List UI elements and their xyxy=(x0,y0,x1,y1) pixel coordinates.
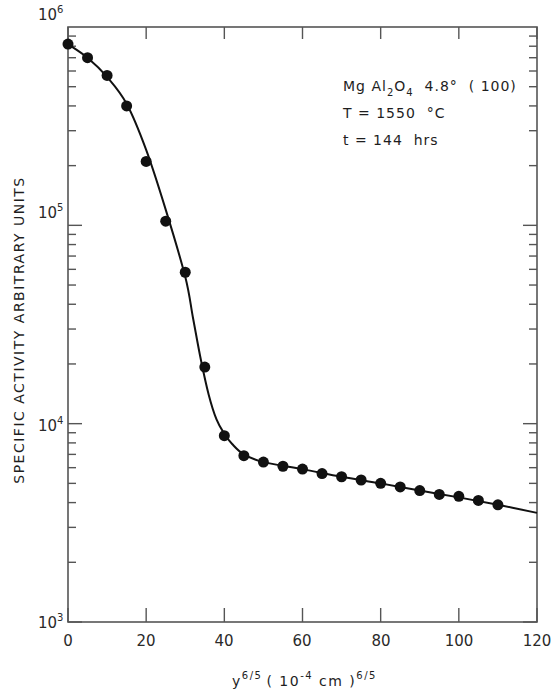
data-point xyxy=(453,491,464,502)
fitted-curve xyxy=(68,44,537,513)
data-point xyxy=(277,461,288,472)
y-axis-title: SPECIFIC ACTIVITY ARBITRARY UNITS xyxy=(11,176,27,483)
annotation-compound: Mg Al2O4 4.8° ( 100) xyxy=(343,78,517,98)
ytick-label-1e6: 106 xyxy=(38,4,63,24)
data-point xyxy=(297,464,308,475)
data-point xyxy=(219,430,230,441)
data-point xyxy=(375,478,386,489)
data-point xyxy=(414,485,425,496)
data-point xyxy=(356,474,367,485)
data-point xyxy=(82,52,93,63)
data-point xyxy=(102,70,113,81)
data-point xyxy=(63,39,74,50)
xtick-label-40: 40 xyxy=(214,632,233,650)
annotation-temperature: T = 1550 °C xyxy=(342,105,446,121)
xtick-label-60: 60 xyxy=(292,632,311,650)
data-point xyxy=(258,457,269,468)
ytick-label-1e3: 103 xyxy=(38,612,63,632)
data-point xyxy=(199,362,210,373)
y-minor-ticks xyxy=(68,36,537,622)
xtick-label-0: 0 xyxy=(63,632,73,650)
x-ticks xyxy=(68,27,537,622)
data-point xyxy=(336,471,347,482)
annotation-time: t = 144 hrs xyxy=(343,132,439,148)
xtick-label-120: 120 xyxy=(523,632,552,650)
data-point xyxy=(395,481,406,492)
xtick-label-100: 100 xyxy=(445,632,474,650)
ytick-label-1e4: 104 xyxy=(38,415,63,435)
chart: 106 105 104 103 0 20 40 60 80 100 120 y6… xyxy=(0,0,560,692)
data-point xyxy=(238,450,249,461)
plot-frame xyxy=(68,27,537,622)
data-point xyxy=(180,267,191,278)
xtick-label-80: 80 xyxy=(371,632,390,650)
data-point xyxy=(473,495,484,506)
ytick-label-1e5: 105 xyxy=(38,202,63,222)
xtick-label-20: 20 xyxy=(136,632,155,650)
data-point xyxy=(141,156,152,167)
data-point xyxy=(121,100,132,111)
data-point xyxy=(492,499,503,510)
data-point xyxy=(317,468,328,479)
data-point xyxy=(434,489,445,500)
x-axis-title: y6/5( 10-4 cm )6/5 xyxy=(232,670,377,689)
data-point xyxy=(160,216,171,227)
